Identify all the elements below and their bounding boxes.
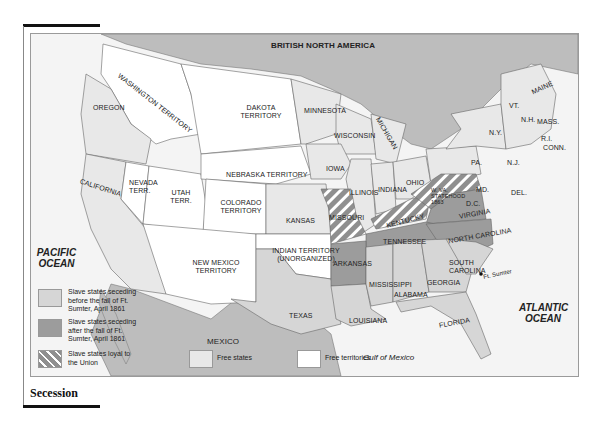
label-alabama: ALABAMA (394, 291, 428, 299)
label-georgia: GEORGIA (427, 279, 460, 287)
bottom-rule (23, 405, 100, 408)
label-delaware: DEL. (511, 189, 527, 197)
label-new-jersey: N.J. (507, 159, 520, 167)
label-nevada: NEVADA TERR. (129, 179, 159, 195)
label-dakota: DAKOTA TERRITORY (231, 104, 291, 120)
label-mexico: MEXICO (207, 338, 239, 346)
legend-swatch-free-territories (297, 350, 321, 368)
label-pennsylvania: PA. (471, 159, 482, 167)
secession-map: BRITISH NORTH AMERICA WASHINGTON TERRITO… (30, 33, 579, 377)
label-vermont: VT. (509, 102, 519, 110)
label-pacific-ocean: PACIFIC OCEAN (34, 247, 79, 269)
label-new-york: N.Y. (489, 129, 502, 137)
legend-swatch-seceding-before (38, 289, 62, 307)
label-nebraska: NEBRASKA TERRITORY (226, 171, 308, 179)
label-oregon: OREGON (93, 104, 125, 112)
legend-text-seceding-before: Slave states seceding before the fall of… (68, 288, 148, 314)
map-caption: Secession (30, 386, 78, 401)
label-iowa: IOWA (326, 165, 345, 173)
legend-swatch-free-states (189, 350, 213, 368)
left-rule (23, 26, 24, 407)
label-connecticut: CONN. (543, 144, 566, 152)
label-west-virginia: W. VA. Statehood 1863 (431, 187, 459, 205)
legend-text-free-states: Free states (217, 354, 252, 363)
label-indiana: INDIANA (378, 186, 407, 194)
top-rule (23, 24, 100, 27)
legend-text-free-territories: Free territories (325, 354, 371, 363)
label-mississippi: MISSISSIPPI (369, 281, 412, 289)
label-illinois: ILLINOIS (349, 189, 379, 197)
label-new-mexico: NEW MEXICO TERRITORY (181, 259, 251, 275)
label-louisiana: LOUISIANA (349, 317, 387, 325)
label-british-north-america: BRITISH NORTH AMERICA (271, 42, 375, 50)
label-rhode-island: R.I. (541, 135, 552, 143)
label-dc: D.C. (466, 200, 480, 208)
label-utah: UTAH TERR. (166, 189, 196, 205)
label-minnesota: MINNESOTA (304, 107, 346, 115)
legend-swatch-seceding-after (38, 319, 62, 337)
label-ohio: OHIO (406, 179, 424, 187)
label-new-hampshire: N.H. (521, 116, 535, 124)
label-massachusetts: MASS. (537, 118, 559, 126)
legend-swatch-loyal (38, 350, 62, 368)
label-maryland: MD. (476, 186, 489, 194)
label-tennessee: TENNESSEE (383, 238, 426, 246)
label-missouri: MISSOURI (329, 214, 364, 222)
label-texas: TEXAS (289, 312, 312, 320)
label-indian-territory: INDIAN TERRITORY (UNORGANIZED) (271, 247, 341, 263)
label-atlantic-ocean: ATLANTIC OCEAN (519, 302, 567, 324)
label-arkansas: ARKANSAS (333, 260, 372, 268)
label-colorado: COLORADO TERRITORY (211, 199, 271, 215)
legend-text-loyal: Slave states loyal to the Union (68, 350, 138, 367)
label-kansas: KANSAS (286, 217, 315, 225)
label-wisconsin: WISCONSIN (334, 132, 375, 140)
legend-text-seceding-after: Slave states seceding after the fall of … (68, 318, 148, 344)
